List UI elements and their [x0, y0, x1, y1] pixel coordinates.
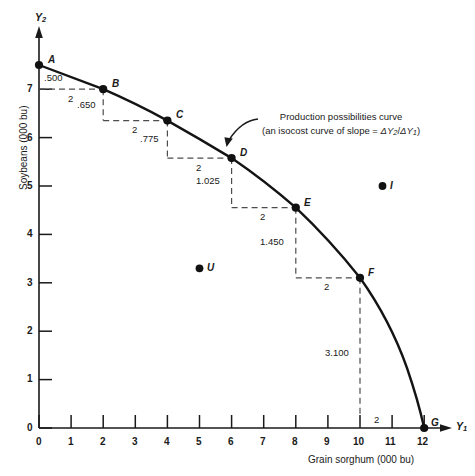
delta-label-de-dx: 2	[260, 212, 265, 222]
x-tick-label-6: 6	[228, 437, 234, 447]
y-tick-label-7: 7	[27, 84, 33, 94]
x-tick-label-7: 7	[260, 437, 266, 447]
annotation-suffix: )	[417, 125, 420, 136]
delta-label-cd-dy: .775	[140, 134, 159, 144]
x-axis-title: Grain sorghum (000 bu)	[308, 455, 414, 465]
delta-label-ab-dy: .500	[44, 73, 63, 83]
point-label-f: F	[368, 268, 374, 278]
delta-label-bc-dy: .650	[77, 100, 96, 110]
y-axis-symbol: Y2	[35, 12, 46, 24]
point-marker-u	[196, 264, 204, 272]
y-tick-label-5: 5	[27, 181, 33, 191]
x-tick-label-9: 9	[324, 437, 330, 447]
annotation-leader-arrow	[224, 119, 258, 147]
chart-canvas	[0, 0, 475, 476]
point-label-g: G	[431, 418, 439, 428]
x-tick-label-0: 0	[36, 437, 42, 447]
point-marker-b	[99, 85, 107, 93]
point-label-e: E	[304, 198, 311, 208]
delta-label-de-dy: 1.025	[196, 176, 220, 186]
x-axis-symbol-sub: 1	[463, 424, 467, 433]
x-tick-label-4: 4	[164, 437, 170, 447]
y-tick-label-3: 3	[27, 278, 33, 288]
y-tick-label-1: 1	[27, 374, 33, 384]
annotation-line-2: (an isocost curve of slope = ΔY2/ΔY1)	[262, 124, 420, 139]
delta-label-cd-dx: 2	[196, 163, 201, 173]
delta-label-fg-dy: 3.100	[325, 348, 349, 358]
x-tick-label-1: 1	[68, 437, 74, 447]
point-label-b: B	[112, 79, 119, 89]
point-marker-f	[356, 274, 364, 282]
y-axis-arrowhead	[35, 26, 43, 38]
point-marker-a	[35, 61, 43, 69]
point-marker-g	[420, 424, 428, 432]
delta-label-ab-dx: 2	[68, 94, 73, 104]
annotation-line-1: Production possibilities curve	[262, 110, 420, 124]
production-possibilities-chart: Y2 Y1 Soybeans (000 bu) Grain sorghum (0…	[0, 0, 475, 476]
x-tick-label-5: 5	[196, 437, 202, 447]
point-label-i: I	[390, 181, 393, 191]
y-tick-label-0: 0	[27, 423, 33, 433]
x-tick-label-3: 3	[132, 437, 138, 447]
y-tick-label-6: 6	[27, 133, 33, 143]
point-marker-c	[163, 117, 171, 125]
x-axis-symbol: Y1	[456, 421, 467, 433]
delta-label-ef-dx: 2	[324, 282, 329, 292]
point-label-c: C	[176, 110, 183, 120]
y-axis-symbol-sub: 2	[42, 15, 46, 24]
x-axis-arrowhead	[440, 424, 452, 432]
y-tick-marks	[39, 89, 52, 428]
curve-annotation: Production possibilities curve (an isoco…	[262, 110, 420, 139]
point-marker-e	[292, 204, 300, 212]
y-axis-symbol-letter: Y	[35, 11, 42, 23]
point-marker-i	[379, 182, 387, 190]
x-tick-label-11: 11	[385, 437, 396, 447]
point-label-d: D	[240, 148, 247, 158]
isolated-point-markers	[196, 182, 387, 272]
y-tick-label-2: 2	[27, 326, 33, 336]
point-label-a: A	[48, 55, 55, 65]
y-tick-label-4: 4	[27, 229, 33, 239]
annotation-prefix: (an isocost curve of slope =	[262, 125, 381, 136]
x-tick-marks	[39, 415, 424, 428]
x-tick-label-2: 2	[100, 437, 106, 447]
delta-label-bc-dx: 2	[132, 125, 137, 135]
point-marker-d	[228, 154, 236, 162]
x-axis-symbol-letter: Y	[456, 420, 463, 432]
x-tick-label-12: 12	[417, 437, 428, 447]
x-tick-label-10: 10	[353, 437, 364, 447]
y-axis-title: Soybeans (000 bu)	[18, 105, 29, 190]
delta-label-ef-dy: 1.450	[260, 237, 284, 247]
delta-label-fg-dx: 2	[374, 415, 379, 425]
point-label-u: U	[207, 263, 214, 273]
x-tick-label-8: 8	[292, 437, 298, 447]
